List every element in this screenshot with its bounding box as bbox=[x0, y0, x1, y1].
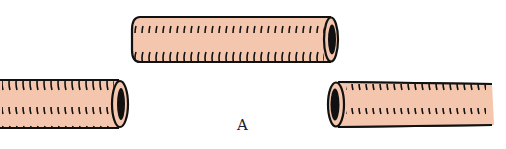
left-tube bbox=[0, 80, 128, 128]
figure-label: A bbox=[237, 116, 248, 134]
top-tube bbox=[132, 17, 338, 62]
right-tube bbox=[328, 82, 494, 127]
tube-diagram: A bbox=[0, 0, 506, 149]
